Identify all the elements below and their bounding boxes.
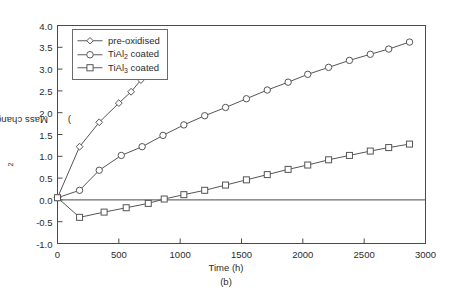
data-point-square [386, 145, 392, 151]
legend: pre-oxidisedTiAl2 coatedTiAl3 coated [72, 29, 168, 80]
figure-caption: (b) [0, 276, 452, 287]
data-point-square [305, 162, 311, 168]
plot-canvas [0, 0, 452, 295]
legend-item: pre-oxidised [75, 34, 160, 48]
square-marker [75, 61, 105, 75]
data-point-circle [386, 46, 392, 52]
data-point-square [123, 205, 129, 211]
legend-label-subscript: 2 [124, 53, 128, 60]
data-point-circle [305, 71, 311, 77]
data-point-square [243, 177, 249, 183]
data-point-square [161, 196, 167, 202]
legend-item-label: TiAl2 coated [105, 48, 159, 60]
series-line-diamond [58, 80, 141, 198]
data-point-square [202, 187, 208, 193]
data-point-square [77, 214, 83, 220]
figure-container: Mass change (mg/cm2) 4.03.53.02.52.01.51… [0, 0, 452, 295]
legend-label-subscript: 3 [124, 67, 128, 74]
data-point-circle [76, 187, 82, 193]
data-point-square [101, 209, 107, 215]
data-point-circle [181, 122, 187, 128]
data-point-circle [325, 64, 331, 70]
data-point-circle [346, 57, 352, 63]
data-point-circle [285, 79, 291, 85]
diamond-marker [75, 34, 105, 48]
data-point-square [181, 192, 187, 198]
data-point-square [145, 200, 151, 206]
data-point-square [346, 152, 352, 158]
data-point-circle [96, 167, 102, 173]
data-point-square [407, 141, 413, 147]
data-point-circle [202, 113, 208, 119]
data-point-circle [367, 51, 373, 57]
data-point-square [367, 148, 373, 154]
series-line-square [58, 144, 410, 217]
data-point-circle [222, 104, 228, 110]
legend-item-label: pre-oxidised [105, 35, 160, 46]
data-point-square [326, 157, 332, 163]
data-point-square [285, 166, 291, 172]
data-point-square [264, 172, 270, 178]
x-axis-label: Time (h) [0, 262, 452, 273]
data-point-square [223, 182, 229, 188]
legend-item: TiAl3 coated [75, 61, 160, 75]
data-point-circle [139, 144, 145, 150]
data-point-circle [118, 152, 124, 158]
data-point-circle [406, 39, 412, 45]
circle-marker [75, 48, 105, 62]
legend-item: TiAl2 coated [75, 48, 160, 62]
data-point-circle [264, 87, 270, 93]
data-point-square [55, 195, 61, 201]
legend-item-label: TiAl3 coated [105, 62, 159, 74]
data-point-circle [160, 132, 166, 138]
data-point-circle [243, 96, 249, 102]
